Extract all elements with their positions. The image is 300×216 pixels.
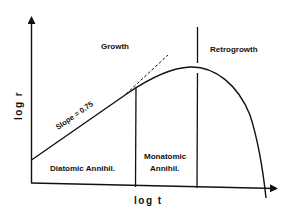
x-axis-label: log t	[134, 195, 163, 206]
x-axis	[31, 183, 276, 189]
region-label-growth: Growth	[101, 42, 129, 51]
divider-diatomic-monatomic	[136, 87, 137, 187]
growth-curve-diagram: Growth Retrogrowth Diatomic Annihil. Mon…	[0, 0, 300, 216]
region-label-monatomic-annihilation-line1: Monatomic	[144, 152, 187, 161]
slope-annotation: Slope = 0.75	[54, 99, 95, 131]
region-label-monatomic-annihilation-line2: Annihil.	[150, 164, 179, 173]
divider-growth-retrogrowth-lower	[197, 73, 198, 188]
growth-curve	[32, 67, 267, 198]
y-axis-label: log r	[13, 91, 24, 120]
region-label-diatomic-annihilation: Diatomic Annihil.	[50, 164, 115, 173]
region-label-retrogrowth: Retrogrowth	[210, 45, 258, 54]
